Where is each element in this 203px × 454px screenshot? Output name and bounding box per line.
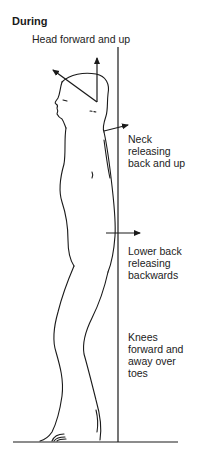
- posture-illustration: [0, 0, 203, 454]
- neck-arrow-icon: [104, 125, 128, 131]
- human-figure-outline: [40, 73, 115, 441]
- head-direction-arrows-icon: [53, 58, 97, 102]
